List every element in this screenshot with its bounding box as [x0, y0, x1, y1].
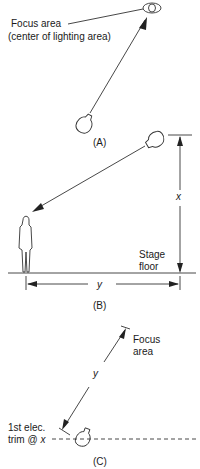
focus-area-icon [143, 3, 161, 13]
distance-label: y [92, 368, 99, 379]
actor-figure-icon [19, 216, 32, 272]
trim-label-variable: x [39, 434, 46, 445]
height-arrowhead-up [177, 136, 183, 146]
panel-a: Focus area (center of lighting area) (A) [8, 3, 161, 148]
beam-arrowhead [139, 17, 147, 30]
focus-end-tick [121, 326, 130, 329]
stage-floor-label: Stage [139, 249, 166, 260]
focus-area-label: Focus [133, 334, 160, 345]
distance-arrowhead-left [27, 281, 37, 287]
panel-c: Focus area y 1st elec. trim @ x (C) [8, 326, 196, 467]
height-label: x [175, 191, 182, 202]
focus-area-sublabel: area [133, 346, 153, 357]
stage-floor-sublabel: floor [139, 261, 159, 272]
trim-label: trim @ x [8, 434, 46, 445]
lighting-instrument-icon [74, 426, 93, 448]
caption-c: (C) [93, 456, 107, 467]
distance-arrowhead-up [119, 328, 126, 339]
focus-label-leader [68, 9, 143, 24]
lighting-instrument-icon [143, 129, 167, 151]
beam-line [36, 146, 145, 209]
focus-area-label: Focus area [11, 18, 61, 29]
distance-arrowhead-right [169, 281, 179, 287]
first-electric-label: 1st elec. [8, 422, 45, 433]
distance-line-lower [64, 387, 89, 427]
trim-label-prefix: trim @ [8, 434, 40, 445]
lighting-instrument-icon [73, 111, 96, 136]
focus-area-sublabel: (center of lighting area) [8, 31, 111, 42]
panel-b: x Stage floor y (B) [8, 129, 196, 311]
caption-b: (B) [93, 300, 106, 311]
caption-a: (A) [93, 137, 106, 148]
height-arrowhead-down [177, 263, 183, 273]
lighting-focus-diagram: Focus area (center of lighting area) (A)… [0, 0, 200, 469]
beam-arrowhead [32, 203, 44, 212]
distance-label: y [96, 279, 103, 290]
instrument-end-tick [59, 428, 70, 435]
